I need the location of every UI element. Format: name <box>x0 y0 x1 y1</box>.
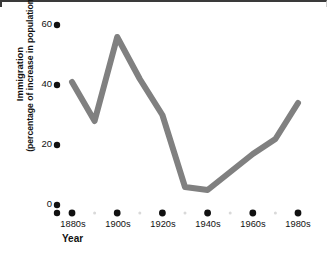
x-tick-marker-1910s <box>138 212 141 215</box>
y-tick-marker-40 <box>54 82 60 88</box>
x-axis-markers <box>54 210 302 217</box>
x-tick-marker-1940s <box>204 210 211 217</box>
x-tick-marker-1920s <box>159 210 166 217</box>
x-tick-marker-1980s <box>295 210 302 217</box>
immigration-series-line <box>72 37 298 190</box>
x-axis-origin-marker <box>54 210 60 216</box>
immigration-line-chart: Immigration (percentage of increase in p… <box>0 7 327 254</box>
y-tick-marker-20 <box>54 142 60 148</box>
plot-canvas <box>0 7 327 254</box>
top-border-rule <box>0 0 327 7</box>
y-tick-marker-60 <box>54 22 60 28</box>
x-tick-marker-1960s <box>249 210 256 217</box>
y-axis-markers <box>54 22 60 208</box>
y-tick-marker-0 <box>54 202 60 208</box>
x-tick-marker-1900s <box>114 210 121 217</box>
x-tick-marker-1880s <box>69 210 76 217</box>
x-tick-marker-1930s <box>184 212 187 215</box>
x-tick-marker-1890s <box>93 212 96 215</box>
x-tick-marker-1950s <box>229 212 232 215</box>
x-tick-marker-1970s <box>274 212 277 215</box>
